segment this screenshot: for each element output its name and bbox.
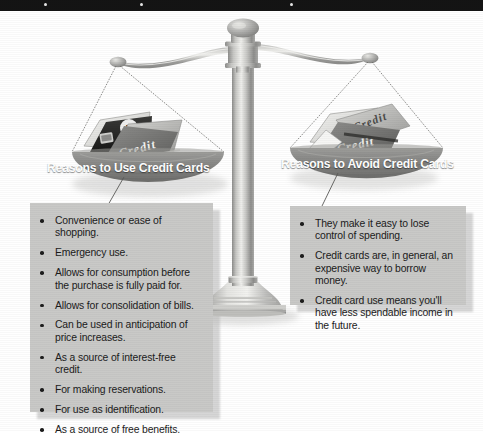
list-item-label: They make it easy to lose control of spe… [315, 218, 429, 241]
list-item-label: Credit cards are, in general, an expensi… [315, 250, 453, 286]
list-item-label: For use as identification. [55, 404, 164, 415]
bullet-icon [40, 251, 44, 255]
list-item: Convenience or ease of shopping. [38, 215, 203, 240]
left-reasons-list: Convenience or ease of shopping. Emergen… [38, 215, 203, 436]
list-item: They make it easy to lose control of spe… [298, 218, 457, 243]
bullet-icon [40, 388, 44, 392]
list-item-label: As a source of free benefits. [55, 424, 180, 435]
list-item: For use as identification. [38, 404, 203, 416]
bullet-icon [40, 219, 44, 223]
right-pan-title: Reasons to Avoid Credit Cards [281, 157, 454, 171]
bullet-icon [300, 299, 304, 303]
list-item: As a source of interest-free credit. [38, 352, 203, 377]
list-item-label: As a source of interest-free credit. [55, 352, 176, 375]
list-item: Allows for consolidation of bills. [38, 300, 203, 312]
bullet-icon [40, 324, 44, 328]
bullet-icon [40, 408, 44, 412]
list-item: Credit cards are, in general, an expensi… [298, 250, 457, 287]
bullet-icon [40, 428, 44, 432]
bullet-icon [40, 304, 44, 308]
left-callout-box: Convenience or ease of shopping. Emergen… [30, 203, 213, 412]
left-pan-title: Reasons to Use Credit Cards [47, 161, 210, 175]
list-item-label: Allows for consumption before the purcha… [55, 267, 190, 290]
list-item: Can be used in anticipation of price inc… [38, 319, 203, 344]
list-item-label: For making reservations. [55, 384, 166, 395]
list-item-label: Convenience or ease of shopping. [55, 215, 161, 238]
right-reasons-list: They make it easy to lose control of spe… [298, 218, 457, 332]
list-item: Credit card use means you'll have less s… [298, 295, 457, 332]
list-item: Emergency use. [38, 247, 203, 259]
list-item-label: Credit card use means you'll have less s… [315, 295, 453, 331]
bullet-icon [300, 254, 304, 258]
bullet-icon [300, 222, 304, 226]
bullet-icon [40, 271, 44, 275]
list-item: Allows for consumption before the purcha… [38, 267, 203, 292]
bullet-icon [40, 356, 44, 360]
list-item: As a source of free benefits. [38, 424, 203, 436]
list-item-label: Emergency use. [55, 247, 128, 258]
list-item-label: Can be used in anticipation of price inc… [55, 319, 187, 342]
list-item-label: Allows for consolidation of bills. [55, 300, 194, 311]
right-callout-box: They make it easy to lose control of spe… [290, 206, 466, 305]
list-item: For making reservations. [38, 384, 203, 396]
